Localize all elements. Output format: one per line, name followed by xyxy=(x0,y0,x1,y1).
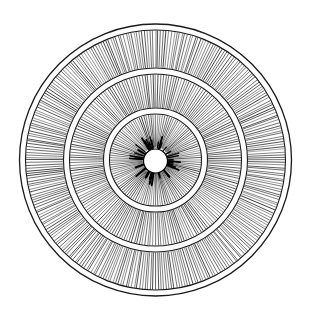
illustration-canvas: Black-and-white line engraving of concen… xyxy=(0,0,311,324)
center-hole xyxy=(144,149,168,173)
concentric-rings-illustration xyxy=(0,0,311,324)
